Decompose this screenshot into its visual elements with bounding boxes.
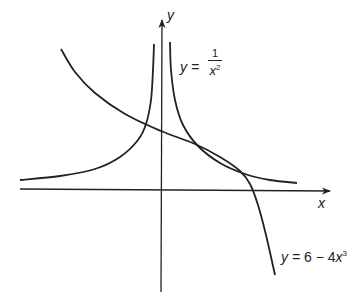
- curve1-exponent: 2: [216, 63, 220, 72]
- x-axis-label: x: [318, 196, 325, 210]
- curve-cubic: [61, 49, 275, 275]
- curve1-lhs-text: y =: [180, 59, 199, 75]
- curve1-denominator: x2: [210, 62, 221, 77]
- curve1-numerator: 1: [212, 48, 218, 59]
- curve2-rhs-text: 6 − 4: [304, 249, 336, 265]
- curve1-fraction: 1 x2: [208, 48, 222, 77]
- curve2-exponent: 3: [343, 249, 347, 258]
- y-axis-label: y: [167, 8, 174, 22]
- curve2-var: x: [336, 249, 343, 265]
- curve1-label-lhs: y =: [180, 60, 199, 74]
- fraction-bar: [208, 60, 222, 61]
- curve-inverse-square-left: [20, 44, 154, 180]
- curve2-label: y = 6 − 4x3: [281, 250, 347, 264]
- y-axis: [161, 20, 162, 292]
- x-axis: [20, 189, 330, 191]
- curve2-lhs-text: y =: [281, 249, 300, 265]
